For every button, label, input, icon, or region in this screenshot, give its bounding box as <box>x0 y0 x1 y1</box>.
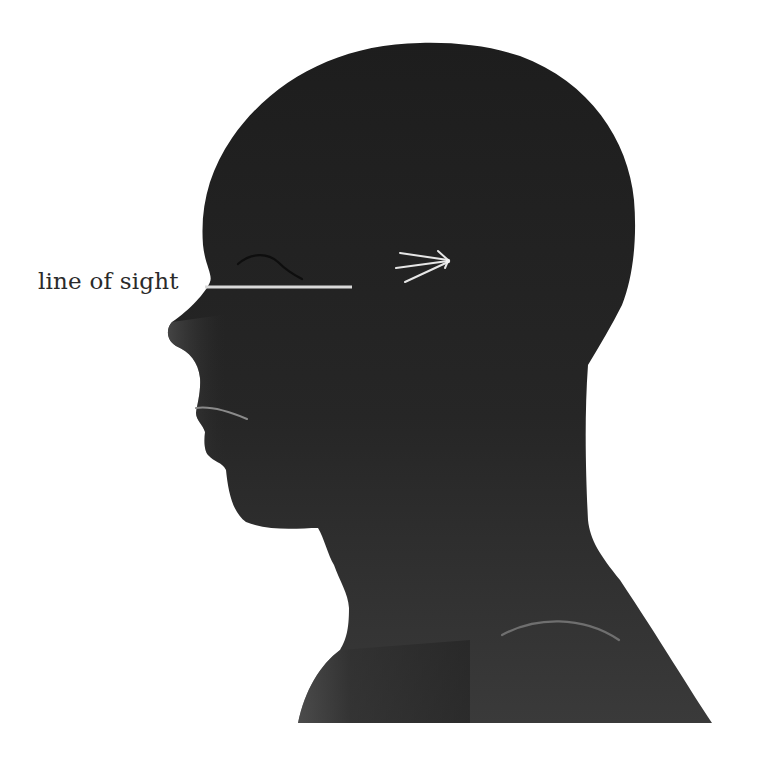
chest-highlight <box>298 640 470 723</box>
line-of-sight-label: line of sight <box>38 270 179 293</box>
face-highlight <box>168 300 330 529</box>
head-profile-diagram <box>0 0 757 764</box>
